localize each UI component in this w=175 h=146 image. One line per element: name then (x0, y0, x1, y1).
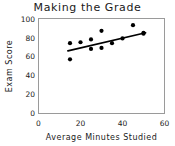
x-tick-label-40: 40 (118, 119, 128, 128)
data-point (68, 57, 72, 61)
x-axis-tick-labels: 0 20 40 60 (36, 119, 169, 128)
y-tick-label-40: 40 (25, 71, 35, 80)
y-tick-label-60: 60 (25, 52, 35, 61)
y-tick-label-100: 100 (21, 15, 36, 24)
data-point (120, 36, 124, 40)
data-point (131, 23, 135, 27)
scatter-chart: Making the Grade 100 80 60 40 20 0 0 20 … (0, 0, 175, 146)
data-point (99, 29, 103, 33)
data-point (89, 37, 93, 41)
y-axis-title: Exam Score (5, 40, 14, 92)
x-tick-label-60: 60 (160, 119, 170, 128)
y-tick-label-80: 80 (25, 34, 35, 43)
x-tick-label-0: 0 (36, 119, 41, 128)
data-point (99, 46, 103, 50)
x-tick-label-20: 20 (76, 119, 86, 128)
data-point (78, 40, 82, 44)
y-tick-label-0: 0 (30, 109, 35, 118)
data-point (141, 32, 145, 36)
data-point (89, 47, 93, 51)
plot-area: 100 80 60 40 20 0 0 20 40 60 Average Min… (0, 0, 175, 146)
data-point (110, 41, 114, 45)
x-axis-title: Average Minutes Studied (46, 133, 158, 142)
data-point (68, 41, 72, 45)
y-axis-tick-labels: 100 80 60 40 20 0 (21, 15, 36, 118)
y-tick-label-20: 20 (25, 90, 35, 99)
